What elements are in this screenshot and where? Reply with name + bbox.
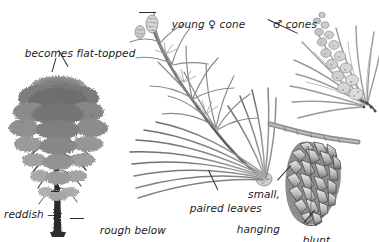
- leader-rough-below: [70, 218, 84, 219]
- label-male-cones: ♂ cones: [259, 7, 317, 42]
- label-small-hanging: small, hanging: [228, 166, 280, 242]
- label-young-female-cone: young ♀ cone: [158, 7, 245, 42]
- leader-young-cone: [139, 12, 156, 13]
- label-line-1: small,: [228, 189, 280, 201]
- label-text-post: cone: [216, 18, 245, 30]
- male-symbol-icon: ♂: [273, 18, 283, 30]
- label-text-pre: young: [172, 18, 209, 30]
- label-text: blunt: [303, 234, 331, 242]
- label-line-1: reddish —: [4, 209, 58, 221]
- label-reddish-bark: reddish — bark: [4, 186, 58, 242]
- label-text-post: cones: [282, 18, 317, 30]
- female-symbol-icon: ♀: [208, 18, 216, 30]
- illustration-plate: becomes flat-topped young ♀ cone ♂ cones…: [0, 0, 379, 242]
- label-text: becomes flat-topped: [25, 47, 136, 59]
- label-becomes-flat-topped: becomes flat-topped: [11, 36, 135, 71]
- label-text: rough below: [100, 224, 166, 236]
- label-line-2: hanging: [228, 224, 280, 236]
- label-rough-below: rough below: [86, 213, 166, 242]
- label-blunt: blunt: [289, 223, 330, 242]
